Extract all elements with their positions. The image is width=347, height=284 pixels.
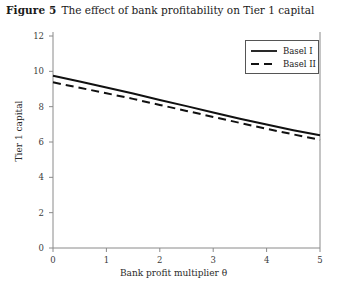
chart-container: 121086420 012345 Bank profit multiplier … xyxy=(0,22,347,284)
series-line-basel-i xyxy=(53,76,320,136)
legend-swatch-solid xyxy=(250,46,278,56)
figure-label: Figure 5 xyxy=(6,4,56,16)
legend-label-basel-2: Basel II xyxy=(283,59,316,69)
y-tick-label: 4 xyxy=(22,172,44,182)
x-tick-label: 5 xyxy=(310,255,330,265)
figure-title: The effect of bank profitability on Tier… xyxy=(61,4,314,16)
legend-label-basel-1: Basel I xyxy=(283,46,312,56)
series-line-basel-ii xyxy=(53,82,320,140)
y-tick-label: 10 xyxy=(22,66,44,76)
data-series-layer xyxy=(53,76,320,140)
y-tick-label: 2 xyxy=(22,208,44,218)
y-tick-label: 0 xyxy=(22,243,44,253)
y-tick-label: 8 xyxy=(22,102,44,112)
figure-caption: Figure 5The effect of bank profitability… xyxy=(6,4,341,17)
x-tick-label: 3 xyxy=(203,255,223,265)
y-axis-title: Tier 1 capital xyxy=(14,76,24,186)
x-tick-label: 1 xyxy=(96,255,116,265)
legend-item-basel-2: Basel II xyxy=(250,57,314,70)
legend-swatch-dashed xyxy=(250,59,278,69)
y-tick-label: 12 xyxy=(22,31,44,41)
x-tick-label: 4 xyxy=(257,255,277,265)
legend-item-basel-1: Basel I xyxy=(250,44,314,57)
chart-legend: Basel I Basel II xyxy=(245,40,319,74)
x-tick-label: 2 xyxy=(150,255,170,265)
y-tick-label: 6 xyxy=(22,137,44,147)
x-axis-title: Bank profit multiplier θ xyxy=(0,268,347,278)
x-tick-label: 0 xyxy=(43,255,63,265)
